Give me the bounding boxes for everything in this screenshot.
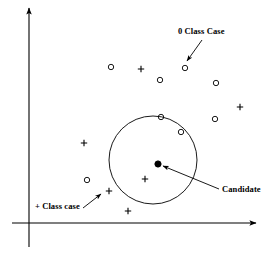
candidate-arrow	[163, 166, 219, 189]
candidate-label: Candidate	[222, 185, 261, 194]
series-plus-class-markers	[81, 66, 243, 214]
plus-class-marker	[106, 188, 112, 194]
zero-class-marker	[213, 80, 218, 85]
figure-canvas	[0, 0, 276, 256]
plus-class-case-label: + Class case	[35, 202, 80, 211]
candidate-neighborhood-circle	[109, 116, 197, 204]
zero-class-arrow	[187, 40, 202, 61]
candidate-marker	[155, 161, 161, 167]
series-candidate-marker	[155, 161, 161, 167]
series-zero-class-markers	[84, 64, 218, 182]
axes-group	[12, 8, 256, 247]
plus-class-marker	[237, 104, 243, 110]
plus-class-arrow	[83, 194, 101, 208]
plus-class-marker	[142, 176, 148, 182]
zero-class-case-label: 0 Class Case	[178, 27, 225, 36]
scatter-figure: 0 Class Case + Class case Candidate	[0, 0, 276, 256]
neighborhood-circle-group	[109, 116, 197, 204]
zero-class-marker	[182, 65, 187, 70]
zero-class-marker	[157, 77, 162, 82]
zero-class-marker	[178, 129, 183, 134]
plus-class-marker	[81, 140, 87, 146]
zero-class-marker	[84, 177, 89, 182]
zero-class-marker	[212, 116, 217, 121]
zero-class-marker	[108, 64, 113, 69]
plus-class-marker	[125, 208, 131, 214]
plus-class-marker	[138, 66, 144, 72]
annotation-arrows	[83, 40, 219, 208]
